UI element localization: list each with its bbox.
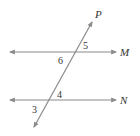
angle-label-5: 5: [83, 40, 88, 51]
label-m: M: [119, 46, 130, 58]
label-p: P: [94, 8, 102, 20]
label-n: N: [119, 94, 128, 106]
angle-label-4: 4: [57, 89, 62, 100]
line-p-transversal: [34, 22, 92, 127]
diagram-svg: P M N 5 6 4 3: [0, 0, 140, 136]
angle-label-3: 3: [32, 104, 37, 115]
diagram-canvas: P M N 5 6 4 3: [0, 0, 140, 136]
angle-label-6: 6: [58, 55, 63, 66]
